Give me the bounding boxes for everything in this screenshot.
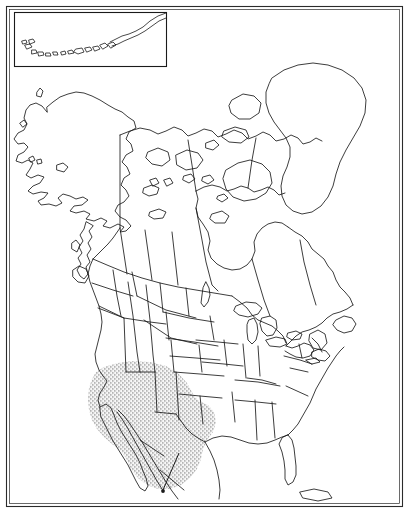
aleutian-islands-inset	[15, 13, 167, 67]
map-canvas	[0, 0, 414, 517]
leader-line-dot	[161, 489, 165, 493]
inset-frame	[15, 13, 167, 67]
distribution-map-figure: North America outline map with stippled …	[0, 0, 414, 517]
